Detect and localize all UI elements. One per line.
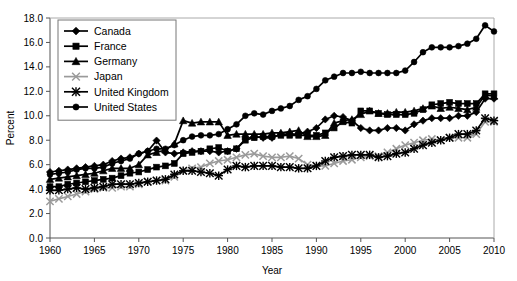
- x-tick-label: 1990: [305, 245, 328, 256]
- legend-label: United States: [94, 101, 157, 113]
- y-tick-label: 0.0: [29, 233, 43, 244]
- legend-label: Germany: [94, 55, 138, 67]
- x-tick-label: 1965: [83, 245, 106, 256]
- chart-container: 0.02.04.06.08.010.012.014.016.018.0 1960…: [0, 0, 517, 281]
- x-tick-label: 2000: [394, 245, 417, 256]
- x-tick-label: 1960: [39, 245, 62, 256]
- x-tick-label: 1980: [216, 245, 239, 256]
- y-tick-label: 6.0: [29, 159, 43, 170]
- health-expenditure-line-chart: 0.02.04.06.08.010.012.014.016.018.0 1960…: [0, 0, 517, 281]
- y-tick-label: 10.0: [24, 110, 44, 121]
- y-tick-label: 4.0: [29, 184, 43, 195]
- x-tick-label: 1970: [128, 245, 151, 256]
- legend-marker-circle-icon: [73, 104, 79, 110]
- x-tick-label: 1995: [350, 245, 373, 256]
- legend-label: United Kingdom: [94, 86, 169, 98]
- legend-marker-square-icon: [73, 43, 79, 49]
- chart-legend: CanadaFranceGermanyJapanUnited KingdomUn…: [58, 20, 176, 120]
- y-tick-label: 14.0: [24, 61, 44, 72]
- y-tick-label: 2.0: [29, 208, 43, 219]
- x-tick-label: 2010: [483, 245, 506, 256]
- y-tick-label: 8.0: [29, 135, 43, 146]
- x-tick-label: 1985: [261, 245, 284, 256]
- legend-label: Japan: [94, 70, 123, 82]
- legend-label: Canada: [94, 25, 131, 37]
- legend-label: France: [94, 40, 127, 52]
- x-tick-label: 1975: [172, 245, 195, 256]
- y-tick-label: 16.0: [24, 37, 44, 48]
- y-axis-title: Percent: [5, 111, 16, 146]
- x-tick-label: 2005: [438, 245, 461, 256]
- y-tick-label: 18.0: [24, 13, 44, 24]
- x-axis-title: Year: [262, 265, 283, 276]
- legend-marker-star-icon: [71, 87, 80, 96]
- y-tick-label: 12.0: [24, 86, 44, 97]
